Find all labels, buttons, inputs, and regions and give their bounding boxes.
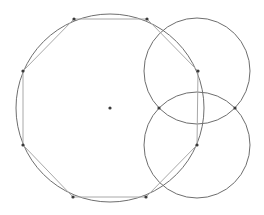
octagon-vertex-5 <box>144 195 147 198</box>
octagon-vertex-1 <box>72 17 75 20</box>
center-point <box>108 106 111 109</box>
octagon-vertex-3 <box>196 69 199 72</box>
intersection-point-1 <box>157 106 160 109</box>
octagon-vertex-6 <box>71 195 74 198</box>
octagon-vertex-4 <box>195 143 198 146</box>
intersection-point-2 <box>233 106 236 109</box>
octagon-vertex-8 <box>21 69 24 72</box>
octagon-vertex-7 <box>21 143 24 146</box>
octagon-vertex-2 <box>145 17 148 20</box>
geometry-diagram <box>0 0 264 215</box>
